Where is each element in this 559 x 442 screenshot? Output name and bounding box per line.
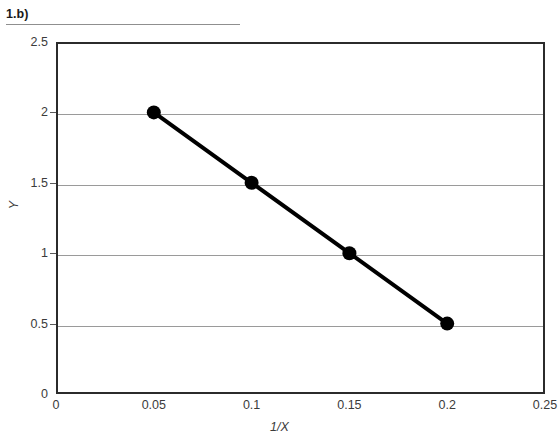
y-tick-label: 1: [41, 247, 48, 260]
plot-frame: [56, 42, 545, 394]
y-tick-mark: [50, 324, 56, 325]
y-tick-label: 0: [41, 388, 48, 401]
y-axis-title: Y: [7, 185, 21, 225]
x-tick-label: 0.15: [337, 399, 361, 412]
x-tick-label: 0.1: [243, 399, 260, 412]
x-tick-label: 0.05: [142, 399, 166, 412]
x-tick-label: 0: [53, 399, 60, 412]
gridline: [58, 185, 543, 186]
gridline: [58, 326, 543, 327]
x-tick-label: 0.2: [438, 399, 455, 412]
x-axis-title: 1/X: [0, 420, 559, 434]
y-tick-label: 0.5: [31, 318, 48, 331]
y-tick-label: 2: [41, 106, 48, 119]
y-tick-mark: [50, 183, 56, 184]
y-tick-mark: [50, 112, 56, 113]
y-tick-label: 1.5: [31, 177, 48, 190]
x-tick-label: 0.25: [533, 399, 557, 412]
gridline: [58, 255, 543, 256]
y-tick-mark: [50, 253, 56, 254]
plot-gridlines: [58, 44, 543, 392]
y-tick-label: 2.5: [31, 36, 48, 49]
figure-container: 1.b) 00.511.522.5 00.050.10.150.20.25 Y …: [0, 0, 559, 442]
gridline: [58, 114, 543, 115]
